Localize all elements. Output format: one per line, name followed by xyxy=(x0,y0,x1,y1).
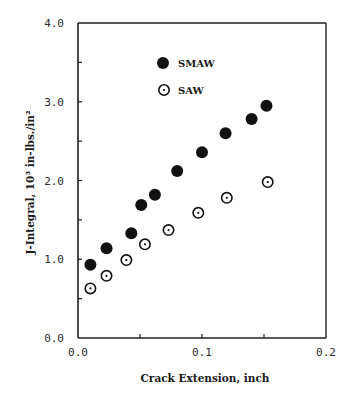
legend-label-smaw: SMAW xyxy=(178,58,216,69)
y-axis-title: J-Integral, 10³ in-lbs./in² xyxy=(24,110,36,256)
data-points xyxy=(84,100,273,294)
axes xyxy=(78,23,326,338)
marker-dot xyxy=(144,243,146,245)
data-point-smaw xyxy=(220,127,232,139)
data-point-saw xyxy=(121,255,131,265)
x-tick-label: 0.0 xyxy=(68,346,88,359)
y-tick-label: 1.0 xyxy=(44,253,64,266)
marker-dot xyxy=(89,287,91,289)
marker-dot xyxy=(167,229,169,231)
legend-item-saw: SAW xyxy=(159,85,205,96)
y-axis-ticks: 0.01.02.03.04.0 xyxy=(44,17,82,345)
x-tick-label: 0.1 xyxy=(192,346,212,359)
data-point-saw xyxy=(193,208,203,218)
legend-label-saw: SAW xyxy=(178,85,204,96)
marker-dot xyxy=(267,181,269,183)
data-point-smaw xyxy=(125,227,137,239)
marker-dot xyxy=(163,89,165,91)
data-point-smaw xyxy=(149,189,161,201)
data-point-smaw xyxy=(135,199,147,211)
data-point-smaw xyxy=(246,113,258,125)
chart: 0.00.10.2 0.01.02.03.04.0 SMAWSAW Crack … xyxy=(0,0,352,403)
legend-marker-smaw xyxy=(157,57,169,69)
marker-dot xyxy=(226,197,228,199)
series-saw xyxy=(85,177,273,294)
marker-dot xyxy=(197,212,199,214)
series-smaw xyxy=(84,100,272,271)
data-point-smaw xyxy=(84,259,96,271)
x-axis-title: Crack Extension, inch xyxy=(141,372,270,384)
data-point-smaw xyxy=(171,165,183,177)
y-tick-label: 2.0 xyxy=(44,175,64,188)
y-tick-label: 3.0 xyxy=(44,96,64,109)
data-point-saw xyxy=(222,193,232,203)
legend: SMAWSAW xyxy=(157,57,216,96)
data-point-saw xyxy=(140,239,150,249)
data-point-smaw xyxy=(260,100,272,112)
y-tick-label: 0.0 xyxy=(44,332,64,345)
marker-dot xyxy=(125,259,127,261)
y-tick-label: 4.0 xyxy=(44,17,64,30)
data-point-smaw xyxy=(101,242,113,254)
data-point-saw xyxy=(163,225,173,235)
data-point-saw xyxy=(85,283,95,293)
x-tick-label: 0.2 xyxy=(316,346,336,359)
data-point-saw xyxy=(263,177,273,187)
data-point-smaw xyxy=(196,146,208,158)
legend-item-smaw: SMAW xyxy=(157,57,216,69)
legend-marker-saw xyxy=(159,85,169,95)
marker-dot xyxy=(105,275,107,277)
data-point-saw xyxy=(101,271,111,281)
